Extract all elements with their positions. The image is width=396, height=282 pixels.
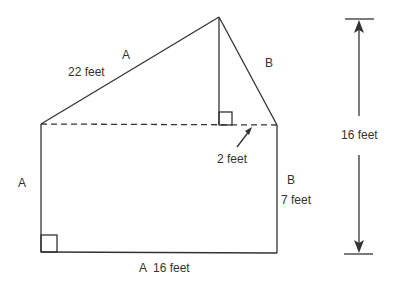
- slant-left-letter: A: [122, 49, 130, 61]
- left-side-letter: A: [18, 177, 26, 189]
- total-height-label: 16 feet: [341, 129, 378, 141]
- bottom-side-line: [41, 252, 277, 253]
- offset-length: 2 feet: [217, 153, 247, 165]
- offset-arrowhead-icon: [245, 127, 252, 135]
- slant-left-length: 22 feet: [68, 66, 105, 78]
- bottom-label: A 16 feet: [139, 262, 190, 274]
- slant-right-letter: B: [265, 57, 273, 69]
- right-side-length: 7 feet: [281, 194, 311, 206]
- shape-diagram: [0, 0, 396, 282]
- right-angle-marker-apex: [219, 112, 232, 125]
- dashed-base-line: [41, 124, 277, 125]
- slant-right-line: [219, 17, 277, 125]
- right-side-letter: B: [287, 174, 295, 186]
- right-angle-marker-corner: [41, 235, 57, 252]
